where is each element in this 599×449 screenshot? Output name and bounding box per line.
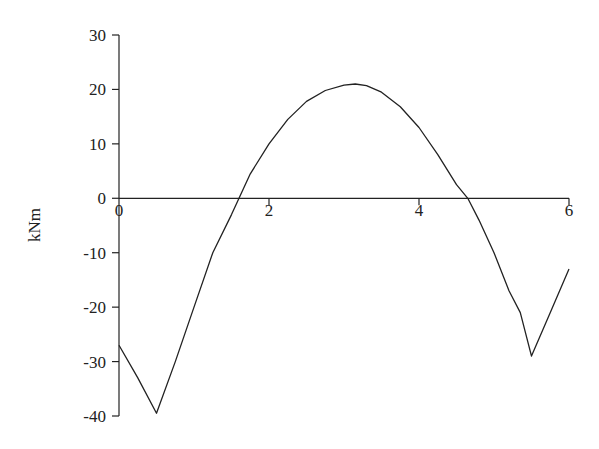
moment-line [119, 84, 569, 413]
y-tick-label: 20 [89, 80, 106, 99]
y-tick-label: -30 [83, 353, 106, 372]
data-series [119, 84, 569, 413]
x-tick-label: 2 [265, 201, 274, 220]
x-axis: 0246 [115, 198, 574, 220]
x-tick-label: 4 [415, 201, 424, 220]
y-tick-label: -10 [83, 244, 106, 263]
x-tick-label: 6 [565, 201, 574, 220]
y-axis: 3020100-10-20-30-40 [83, 26, 119, 426]
y-tick-label: 0 [98, 189, 107, 208]
y-tick-label: -20 [83, 298, 106, 317]
x-tick-label: 0 [115, 201, 124, 220]
y-axis-title: kNm [25, 208, 44, 242]
y-tick-label: 30 [89, 26, 106, 45]
y-tick-label: 10 [89, 135, 106, 154]
y-tick-label: -40 [83, 407, 106, 426]
bending-moment-chart: 3020100-10-20-30-40 0246 kNm [0, 0, 599, 449]
